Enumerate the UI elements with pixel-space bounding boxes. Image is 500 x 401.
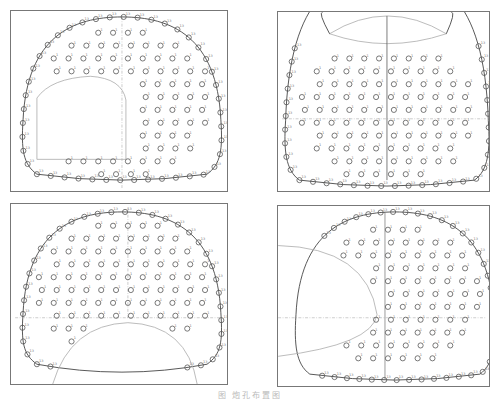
hole-label: 1 (396, 131, 398, 135)
hole-label: 1 (381, 79, 383, 83)
hole-label: 1 (74, 285, 76, 289)
hole-label: 13 (336, 223, 340, 227)
hole-label: 1 (71, 272, 73, 276)
hole-label: 1 (438, 340, 440, 344)
hole-label: 1 (363, 92, 365, 96)
hole-label: 1 (115, 298, 117, 302)
hole-label: 1 (426, 54, 428, 58)
hole-label: 1 (423, 238, 425, 242)
hole-label: 1 (86, 53, 88, 57)
hole-label: 13 (26, 104, 30, 108)
hole-label: 1 (71, 324, 73, 328)
hole-label: 1 (100, 298, 102, 302)
hole-label: 13 (293, 165, 297, 169)
hole-label: 1 (207, 92, 209, 96)
hole-label: 1 (175, 53, 177, 57)
hole-label: 1 (71, 246, 73, 250)
hole-label: 1 (103, 285, 105, 289)
hole-label: 1 (452, 238, 454, 242)
hole-label: 13 (39, 359, 43, 363)
hole-label: 1 (393, 92, 395, 96)
hole-label: 1 (426, 131, 428, 135)
hole-label: 1 (189, 298, 191, 302)
hole-label: 13 (86, 212, 90, 216)
hole-label: 13 (486, 259, 489, 263)
hole-label: 1 (56, 53, 58, 57)
hole-label: 1 (405, 276, 407, 280)
hole-label: 1 (160, 221, 162, 225)
hole-label: 1 (337, 79, 339, 83)
hole-label: 1 (360, 250, 362, 254)
hole-label: 1 (363, 238, 365, 242)
hole-label: 1 (375, 353, 377, 357)
hole-label: 1 (175, 131, 177, 135)
hole-label: 1 (178, 285, 180, 289)
hole-label: 13 (208, 54, 212, 58)
hole-label: 1 (192, 285, 194, 289)
hole-label: 13 (168, 214, 172, 218)
hole-label: 1 (207, 259, 209, 263)
hole-label: 1 (71, 53, 73, 57)
hole-label: 1 (423, 315, 425, 319)
hole-label: 1 (366, 156, 368, 160)
hole-label: 1 (118, 66, 120, 70)
hole-label: 1 (452, 263, 454, 267)
hole-label: 13 (178, 173, 182, 177)
hole-label: 13 (150, 175, 154, 179)
hole-label: 13 (74, 217, 78, 221)
hole-label: 13 (215, 354, 219, 358)
hole-label: 1 (145, 105, 147, 109)
hole-label: 1 (175, 105, 177, 109)
hole-label: 1 (390, 353, 392, 357)
hole-label: 13 (122, 175, 126, 179)
hole-label: 13 (370, 209, 374, 213)
hole-label: 1 (178, 234, 180, 238)
hole-label: 1 (464, 276, 466, 280)
hole-label: 1 (74, 234, 76, 238)
hole-label: 13 (192, 171, 196, 175)
hole-label: 1 (438, 238, 440, 242)
hole-label: 13 (223, 315, 227, 319)
hole-label: 1 (393, 169, 395, 173)
hole-label: 1 (133, 234, 135, 238)
hole-label: 1 (435, 302, 437, 306)
hole-label: 1 (449, 302, 451, 306)
hole-label: 1 (207, 118, 209, 122)
hole-label: 13 (480, 248, 484, 252)
hole-label: 1 (349, 118, 351, 122)
hole-label: 1 (435, 276, 437, 280)
hole-label: 13 (100, 209, 104, 213)
hole-label: 1 (411, 105, 413, 109)
hole-label: 1 (86, 246, 88, 250)
hole-label: 1 (148, 169, 150, 173)
hole-label: 1 (408, 289, 410, 293)
hole-label: 1 (103, 259, 105, 263)
hole-label: 1 (423, 169, 425, 173)
hole-label: 13 (214, 261, 218, 265)
hole-label: 1 (100, 53, 102, 57)
hole-label: 1 (381, 156, 383, 160)
hole-label: 13 (112, 12, 116, 16)
hole-label: 1 (130, 272, 132, 276)
hole-label: 13 (208, 249, 212, 253)
hole-label: 13 (292, 70, 296, 74)
hole-label: 1 (349, 66, 351, 70)
hole-label: 1 (175, 324, 177, 328)
hole-label: 13 (53, 362, 57, 366)
hole-label: 13 (287, 138, 291, 142)
hole-label: 13 (452, 178, 456, 182)
hole-label: 13 (455, 221, 459, 225)
hole-label: 13 (221, 288, 225, 292)
hole-label: 1 (118, 169, 120, 173)
hole-label: 1 (160, 246, 162, 250)
hole-label: 1 (390, 276, 392, 280)
hole-label: 1 (423, 92, 425, 96)
hole-label: 1 (366, 79, 368, 83)
hole-label: 13 (28, 282, 32, 286)
hole-label: 13 (201, 237, 205, 241)
panel-top-right: 1313131313131313131313131313131313131313… (277, 11, 490, 192)
hole-label: 13 (465, 177, 469, 181)
hole-label: 1 (366, 105, 368, 109)
hole-label: 1 (189, 272, 191, 276)
hole-label: 1 (56, 272, 58, 276)
